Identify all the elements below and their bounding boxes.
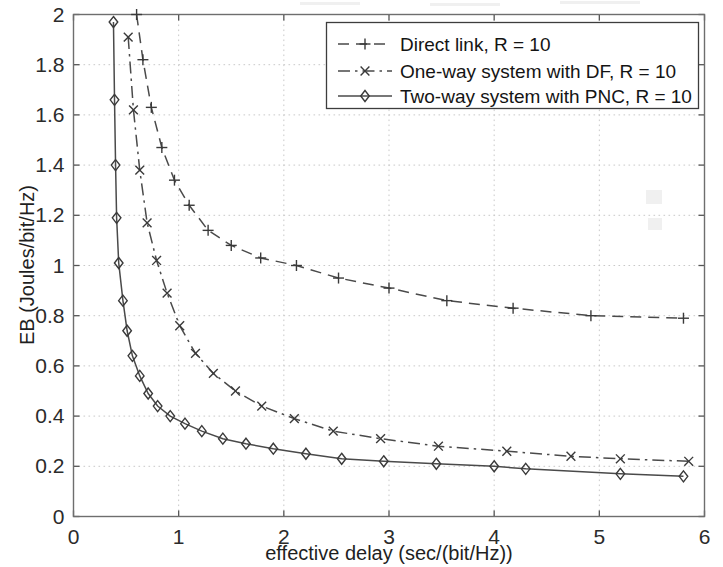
legend: Direct link, R = 10One-way system with D… <box>327 23 699 109</box>
scan-artifact <box>648 218 662 230</box>
x-tick-label: 1 <box>173 525 185 548</box>
y-tick-label: 0 <box>53 505 65 528</box>
y-tick-label: 1.8 <box>35 53 64 76</box>
chart-figure: 00.20.40.60.811.21.41.61.82 0123456 EB (… <box>0 0 723 567</box>
scan-artifact <box>560 1 640 4</box>
y-tick-label: 0.4 <box>35 404 65 427</box>
legend-label: Direct link, R = 10 <box>400 34 550 55</box>
y-tick-label: 1 <box>53 254 65 277</box>
y-tick-label: 0.2 <box>35 454 64 477</box>
x-tick-label: 6 <box>699 525 711 548</box>
legend-label: One-way system with DF, R = 10 <box>400 61 676 82</box>
y-axis-title: EB (Joules/bit/Hz) <box>16 185 38 345</box>
scan-artifact <box>300 2 360 5</box>
chart-canvas: 00.20.40.60.811.21.41.61.82 0123456 EB (… <box>0 0 723 567</box>
scan-artifact <box>430 3 500 6</box>
legend-label: Two-way system with PNC, R = 10 <box>400 86 692 107</box>
y-tick-label: 0.6 <box>35 354 64 377</box>
x-axis-title: effective delay (sec/(bit/Hz)) <box>265 542 513 564</box>
y-tick-label: 1.2 <box>35 203 64 226</box>
y-tick-label: 0.8 <box>35 304 64 327</box>
y-tick-label: 2 <box>53 3 65 26</box>
y-tick-label: 1.4 <box>35 153 65 176</box>
y-axis-tick-labels: 00.20.40.60.811.21.41.61.82 <box>35 3 65 528</box>
scan-artifact <box>646 190 662 204</box>
x-tick-label: 0 <box>68 525 80 548</box>
x-tick-label: 5 <box>593 525 605 548</box>
y-tick-label: 1.6 <box>35 103 64 126</box>
